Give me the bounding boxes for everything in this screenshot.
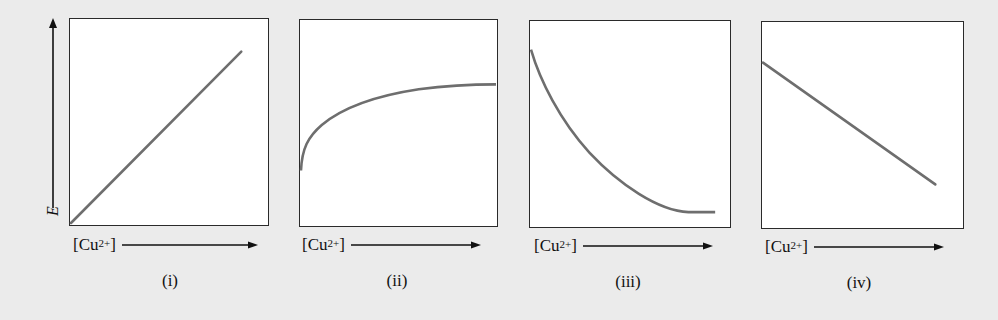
x-axis-arrow-icon	[814, 242, 944, 252]
panel-label-i: (i)	[140, 271, 200, 291]
x-axis-arrow-icon	[122, 240, 258, 250]
plot-iv	[761, 21, 964, 229]
panel-label-ii: (ii)	[367, 271, 427, 291]
x-axis-label-iii: [Cu2+]	[534, 236, 713, 256]
x-axis-label-iv: [Cu2+]	[765, 237, 944, 257]
x-axis-arrow-icon	[583, 241, 713, 251]
y-axis-label: E	[44, 206, 62, 216]
x-axis-label-i: [Cu2+]	[73, 235, 258, 255]
plot-iii	[529, 20, 731, 228]
plot-i	[69, 18, 269, 226]
x-axis-arrow-icon	[351, 240, 481, 250]
x-axis-label-ii: [Cu2+]	[302, 235, 481, 255]
y-axis-arrow	[46, 18, 60, 226]
curve-iii	[531, 50, 715, 212]
plot-ii	[299, 19, 498, 227]
curve-ii	[301, 84, 496, 170]
curve-i	[71, 52, 241, 223]
panel-label-iv: (iv)	[829, 273, 889, 293]
curve-iv	[763, 63, 935, 185]
panel-label-iii: (iii)	[598, 272, 658, 292]
